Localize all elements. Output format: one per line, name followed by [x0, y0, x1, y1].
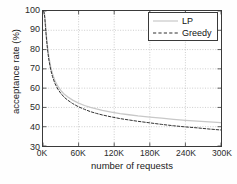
x-tick-label: 300K — [212, 148, 232, 158]
x-tick-label: 120K — [104, 148, 124, 158]
x-tick-label: 60K — [70, 148, 85, 158]
legend-label-lp: LP — [182, 16, 193, 26]
legend-label-greedy: Greedy — [182, 28, 212, 38]
chart-legend: LP Greedy — [148, 12, 218, 41]
legend-line-sample-lp — [152, 17, 179, 25]
x-axis-tick-labels: 0K60K120K180K240K300K — [42, 148, 222, 160]
chart-figure: 10090807060504030 acceptance rate (%) 0K… — [0, 0, 237, 184]
legend-item-greedy: Greedy — [152, 27, 214, 39]
x-axis-title: number of requests — [42, 160, 222, 171]
x-tick-label: 240K — [176, 148, 196, 158]
legend-item-lp: LP — [152, 15, 214, 27]
y-tick-label: 30 — [0, 143, 40, 152]
x-tick-label: 0K — [37, 148, 47, 158]
x-tick-label: 180K — [140, 148, 160, 158]
y-axis-title: acceptance rate (%) — [10, 2, 21, 142]
legend-line-sample-greedy — [152, 29, 179, 37]
